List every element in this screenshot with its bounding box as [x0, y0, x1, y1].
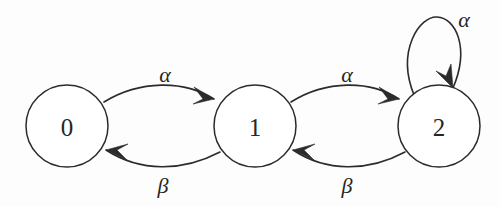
transition-one-to-two: α — [291, 62, 399, 105]
transition-one-to-zero: β — [106, 144, 220, 198]
state-node-1[interactable]: 1 — [214, 85, 296, 167]
fsm-canvas: α β α β α — [0, 0, 500, 206]
edge-label-two-to-one: β — [341, 173, 353, 198]
arrowhead-zero-to-one — [193, 87, 214, 104]
state-label-1: 1 — [249, 114, 262, 141]
edge-label-zero-to-one: α — [159, 62, 171, 87]
edge-path-one-to-two — [291, 85, 399, 102]
state-machine-diagram: α β α β α — [0, 0, 500, 206]
state-label-0: 0 — [61, 114, 74, 141]
transition-zero-to-one: α — [104, 62, 214, 105]
edge-label-one-to-zero: β — [157, 173, 169, 198]
state-node-0[interactable]: 0 — [26, 85, 108, 167]
edge-path-two-to-one — [293, 150, 405, 167]
arrowhead-one-to-two — [378, 87, 399, 104]
edge-path-zero-to-one — [104, 85, 214, 102]
state-label-2: 2 — [433, 114, 446, 141]
edge-label-two-self-loop: α — [458, 7, 470, 32]
transition-two-self-loop: α — [408, 7, 471, 96]
edge-label-one-to-two: α — [341, 62, 353, 87]
state-node-2[interactable]: 2 — [398, 85, 480, 167]
states-group: 0 1 2 — [26, 85, 480, 167]
transition-two-to-one: β — [293, 144, 405, 198]
